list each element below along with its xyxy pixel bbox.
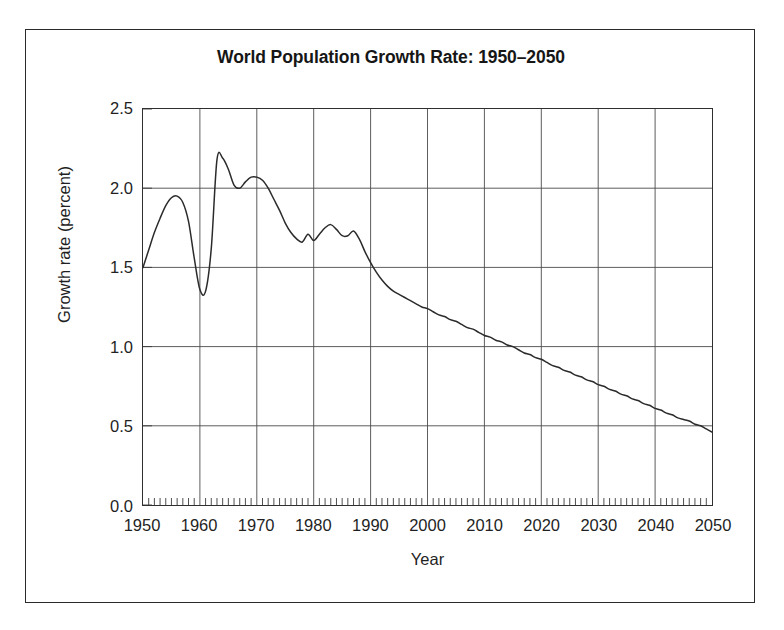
x-tick-label: 2020 xyxy=(523,516,560,535)
x-axis-title: Year xyxy=(142,550,713,569)
x-tick-label: 1980 xyxy=(295,516,332,535)
x-tick-label: 2000 xyxy=(409,516,446,535)
x-tick-label: 1950 xyxy=(124,516,161,535)
y-tick-label: 1.5 xyxy=(79,258,133,277)
x-tick-label: 2030 xyxy=(580,516,617,535)
y-tick-label: 0.5 xyxy=(79,417,133,436)
y-tick-label: 0.0 xyxy=(79,497,133,516)
y-tick-label: 2.0 xyxy=(79,178,133,197)
y-axis-ticks xyxy=(143,109,152,505)
x-axis-tick-labels: 1950196019701980199020002010202020302040… xyxy=(142,516,713,540)
x-tick-label: 1960 xyxy=(181,516,218,535)
y-tick-label: 1.0 xyxy=(79,337,133,356)
page-title: World Population Growth Rate: 1950–2050 xyxy=(26,47,756,68)
x-tick-label: 2050 xyxy=(695,516,732,535)
x-tick-label: 2040 xyxy=(638,516,675,535)
x-tick-label: 2010 xyxy=(466,516,503,535)
y-tick-label: 2.5 xyxy=(79,99,133,118)
y-axis-tick-labels: 0.00.51.01.52.02.5 xyxy=(73,108,133,506)
chart-svg xyxy=(143,109,712,505)
x-tick-label: 1970 xyxy=(238,516,275,535)
y-axis-title: Growth rate (percent) xyxy=(55,135,74,355)
x-tick-label: 1990 xyxy=(352,516,389,535)
figure-frame: World Population Growth Rate: 1950–2050 … xyxy=(25,29,755,603)
plot-area xyxy=(142,108,713,506)
